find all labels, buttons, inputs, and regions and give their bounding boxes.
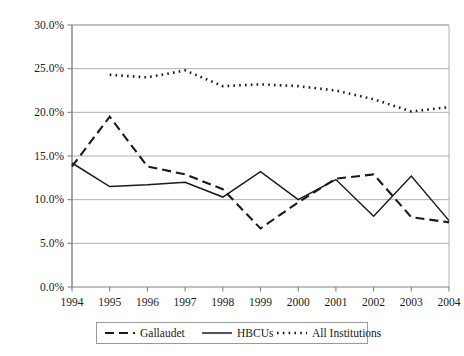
legend-label: All Institutions (312, 327, 381, 339)
y-axis-label-5: 5.0% (8, 237, 64, 249)
y-axis-label-30: 30.0% (8, 19, 64, 31)
x-axis-label-2000: 2000 (279, 296, 317, 308)
y-axis-label-0: 0.0% (8, 281, 64, 293)
legend-swatch-dotted-icon (277, 328, 307, 338)
legend-swatch-dashed-icon (105, 328, 135, 338)
legend-swatch-solid-icon (202, 328, 232, 338)
series-line-all-institutions (110, 70, 449, 111)
legend-item-hbcus: HBCUs (202, 323, 273, 343)
x-axis-label-2002: 2002 (355, 296, 393, 308)
x-axis-label-1998: 1998 (204, 296, 242, 308)
x-axis-label-1999: 1999 (242, 296, 280, 308)
legend-label: HBCUs (237, 327, 273, 339)
y-axis-label-10: 10.0% (8, 193, 64, 205)
y-axis-label-15: 15.0% (8, 150, 64, 162)
axis-ticks (68, 25, 450, 292)
legend-item-all-institutions: All Institutions (277, 323, 381, 343)
x-axis-label-1996: 1996 (128, 296, 166, 308)
x-axis-label-2004: 2004 (430, 296, 464, 308)
x-axis-label-1994: 1994 (53, 296, 91, 308)
x-axis-label-1995: 1995 (91, 296, 129, 308)
x-axis-label-2001: 2001 (317, 296, 355, 308)
y-axis-label-20: 20.0% (8, 106, 64, 118)
y-axis-label-25: 25.0% (8, 62, 64, 74)
series-lines (72, 70, 449, 228)
chart-figure: 0.0%5.0%10.0%15.0%20.0%25.0%30.0% 199419… (0, 0, 464, 356)
chart-legend: GallaudetHBCUsAll Institutions (96, 322, 368, 344)
gridlines (72, 25, 449, 287)
legend-item-gallaudet: Gallaudet (105, 323, 185, 343)
legend-label: Gallaudet (140, 327, 185, 339)
x-axis-label-1997: 1997 (166, 296, 204, 308)
x-axis-label-2003: 2003 (392, 296, 430, 308)
series-line-hbcus (72, 163, 449, 221)
